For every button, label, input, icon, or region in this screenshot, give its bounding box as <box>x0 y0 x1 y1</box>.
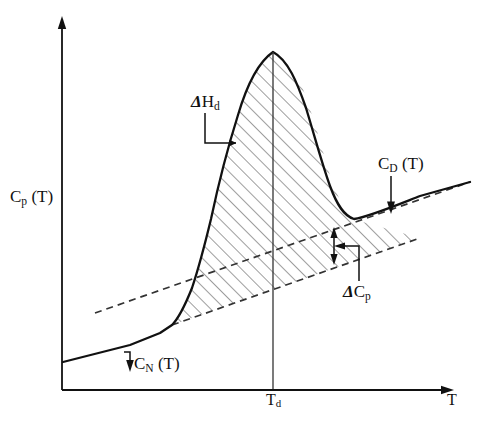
cd-label: CD (T) <box>378 155 424 174</box>
cn-label: CN (T) <box>134 355 180 374</box>
delta-hd-label: ΔHd <box>191 93 220 112</box>
delta-cp-base: C <box>354 282 365 301</box>
x-axis-tick-label-td: Td <box>266 392 281 409</box>
td-base: T <box>266 391 276 408</box>
y-axis-label-tail: (T) <box>27 187 53 206</box>
x-axis <box>62 386 454 394</box>
delta-hd-sub: d <box>214 100 220 113</box>
cn-label-base: C <box>134 354 145 373</box>
cn-leader <box>124 352 134 372</box>
y-axis-label: Cp (T) <box>10 188 53 207</box>
delta-cp-sub: p <box>365 290 371 303</box>
cn-label-sub: N <box>145 362 153 375</box>
delta-symbol-hd: Δ <box>191 92 202 111</box>
y-axis-label-base: C <box>10 187 21 206</box>
delta-hd-base: H <box>202 92 214 111</box>
td-sub: d <box>276 397 281 409</box>
delta-cp-label: ΔCp <box>343 283 371 302</box>
x-axis-label: T <box>447 392 457 408</box>
figure-dsc-thermogram: Cp (T) ΔHd CD (T) CN (T) ΔCp Td T <box>0 0 484 425</box>
y-axis <box>58 16 66 390</box>
delta-symbol-cp: Δ <box>343 282 354 301</box>
cn-label-tail: (T) <box>154 354 180 373</box>
cd-label-tail: (T) <box>398 154 424 173</box>
cd-label-base: C <box>378 154 389 173</box>
chart-canvas <box>0 0 484 425</box>
cd-label-sub: D <box>389 162 397 175</box>
